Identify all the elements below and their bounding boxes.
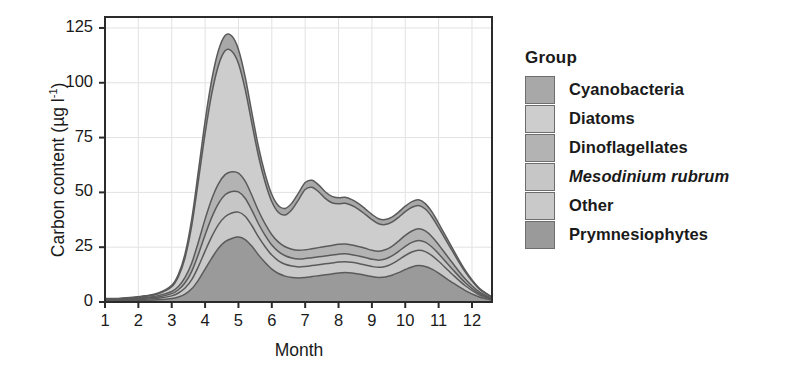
legend-swatch: [525, 105, 555, 133]
legend-item-label: Other: [569, 196, 614, 215]
legend-swatch: [525, 192, 555, 220]
legend-item-label: Prymnesiophytes: [569, 225, 708, 244]
legend-item-label: Diatoms: [569, 109, 635, 128]
legend-item-label: Cyanobacteria: [569, 80, 684, 99]
legend-swatch: [525, 221, 555, 249]
figure-stacked-area-chart: Carbon content (µg l-1) Month 0255075100…: [0, 0, 794, 374]
legend-item[interactable]: Cyanobacteria: [521, 75, 794, 104]
y-tick-label: 25: [33, 236, 93, 255]
x-tick-label: 12: [452, 311, 492, 330]
y-tick-label: 100: [33, 72, 93, 91]
y-axis-title-main: Carbon content (µg l: [48, 98, 68, 257]
y-tick-label: 75: [33, 127, 93, 146]
legend-swatch: [525, 134, 555, 162]
legend-item-label: Dinoflagellates: [569, 138, 688, 157]
y-tick-label: 125: [33, 17, 93, 36]
legend-item-label: Mesodinium rubrum: [569, 167, 729, 186]
y-tick-label: 50: [33, 181, 93, 200]
legend: Group CyanobacteriaDiatomsDinoflagellate…: [521, 48, 794, 249]
legend-item[interactable]: Diatoms: [521, 104, 794, 133]
y-axis-title: Carbon content (µg l-1): [47, 20, 69, 320]
legend-item[interactable]: Dinoflagellates: [521, 133, 794, 162]
x-axis-title: Month: [105, 340, 493, 361]
legend-item[interactable]: Other: [521, 191, 794, 220]
legend-items: CyanobacteriaDiatomsDinoflagellatesMesod…: [521, 75, 794, 249]
legend-item[interactable]: Mesodinium rubrum: [521, 162, 794, 191]
legend-item[interactable]: Prymnesiophytes: [521, 220, 794, 249]
legend-swatch: [525, 76, 555, 104]
legend-title: Group: [525, 48, 794, 68]
y-tick-label: 0: [33, 291, 93, 310]
plot-area-wrapper: Carbon content (µg l-1) Month 0255075100…: [0, 0, 520, 374]
legend-swatch: [525, 163, 555, 191]
